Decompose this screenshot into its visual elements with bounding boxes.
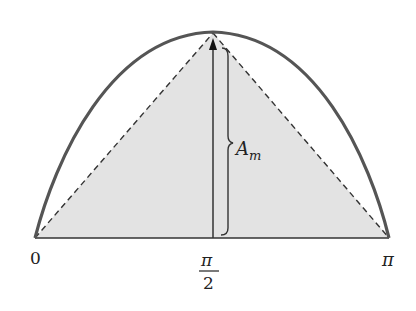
sine-arch-diagram: Am 0 π 2 π	[0, 0, 416, 311]
x-label-pi-over-2-numerator: π	[200, 250, 213, 270]
x-label-zero: 0	[30, 248, 41, 268]
inscribed-triangle	[35, 33, 389, 238]
x-label-pi: π	[381, 249, 395, 270]
x-label-pi-over-2-denominator: 2	[203, 273, 214, 293]
